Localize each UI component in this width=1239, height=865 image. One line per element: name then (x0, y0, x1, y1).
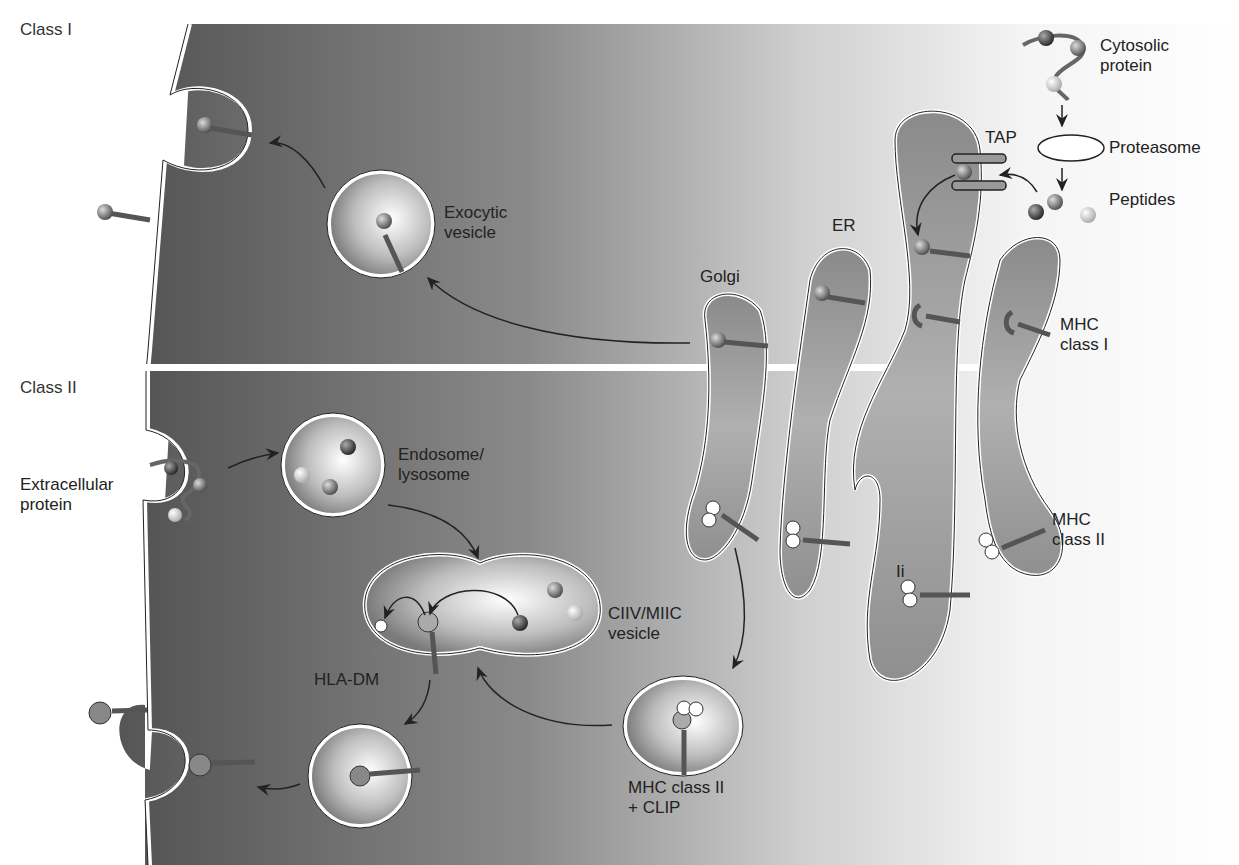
endosome-lysosome (281, 413, 385, 517)
section-label-class-i: Class I (20, 20, 72, 40)
label-golgi: Golgi (700, 267, 740, 287)
section-label-class-ii: Class II (20, 378, 77, 398)
label-proteasome: Proteasome (1109, 138, 1201, 158)
proteasome (1038, 135, 1104, 161)
label-hla-dm: HLA-DM (314, 670, 379, 690)
label-tap: TAP (985, 128, 1017, 148)
label-cytosolic-protein: Cytosolic protein (1100, 36, 1169, 76)
tap-transporter-top (952, 154, 1006, 163)
exocytic-vesicle (327, 170, 435, 278)
label-exocytic-vesicle: Exocytic vesicle (444, 203, 507, 243)
label-mhc-class-ii: MHC class II (1052, 510, 1105, 550)
mhc-pathway-diagram (0, 0, 1239, 865)
label-extracellular-protein: Extracellular protein (20, 475, 114, 515)
mhc-ii-clip-vesicle (623, 676, 743, 776)
label-peptides: Peptides (1109, 190, 1175, 210)
label-mhc-class-i: MHC class I (1060, 315, 1108, 355)
label-ciiv-miic-vesicle: CIIV/MIIC vesicle (608, 604, 682, 644)
tap-transporter-bottom (952, 181, 1006, 190)
label-ii: Ii (896, 562, 905, 582)
label-endosome-lysosome: Endosome/ lysosome (398, 445, 484, 485)
label-er: ER (832, 216, 856, 236)
label-mhc-class-ii-clip: MHC class II + CLIP (628, 778, 724, 818)
